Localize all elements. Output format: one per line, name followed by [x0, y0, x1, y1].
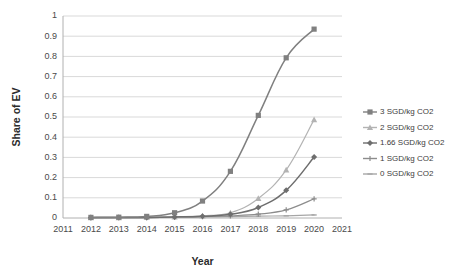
- ytick-label-0.4: 0.4: [44, 132, 57, 142]
- ev-share-line-chart: 00.10.20.30.40.50.60.70.80.9120112012201…: [0, 0, 470, 275]
- ytick-label-0.3: 0.3: [44, 152, 57, 162]
- legend-item-0[interactable]: 3 SGD/kg CO2: [363, 107, 434, 116]
- legend-marker-diamond-icon: [367, 140, 373, 146]
- xtick-label-2013: 2013: [109, 224, 129, 234]
- xtick-label-2016: 2016: [192, 224, 212, 234]
- xtick-label-2015: 2015: [165, 224, 185, 234]
- xtick-label-2018: 2018: [248, 224, 268, 234]
- legend-marker-square-icon: [367, 109, 372, 114]
- legend-item-2[interactable]: 1.66 SGD/kg CO2: [363, 138, 445, 147]
- xtick-label-2011: 2011: [53, 224, 72, 234]
- series-1: [88, 117, 317, 221]
- series-line-2: [91, 157, 314, 218]
- legend-label-4: 0 SGD/kg CO2: [380, 169, 434, 178]
- ytick-label-0.7: 0.7: [44, 71, 57, 81]
- xtick-label-2020: 2020: [304, 224, 324, 234]
- ytick-label-0: 0: [52, 212, 57, 222]
- series-3-point-2020: [312, 196, 317, 201]
- chart-canvas: 00.10.20.30.40.50.60.70.80.9120112012201…: [0, 0, 470, 275]
- series-0-point-2020: [312, 27, 317, 32]
- xtick-label-2021: 2021: [332, 224, 352, 234]
- ytick-label-0.1: 0.1: [44, 192, 57, 202]
- legend-marker-cross-icon: [367, 156, 372, 161]
- xtick-label-2017: 2017: [220, 224, 240, 234]
- series-line-0: [91, 29, 314, 217]
- legend-item-1[interactable]: 2 SGD/kg CO2: [363, 123, 434, 132]
- series-0-point-2018: [256, 113, 261, 118]
- ytick-label-0.2: 0.2: [44, 172, 57, 182]
- series-0-point-2016: [200, 198, 205, 203]
- series-0-point-2015: [172, 210, 177, 215]
- ytick-label-1: 1: [52, 10, 57, 20]
- series-0-point-2014: [144, 214, 149, 219]
- series-0-point-2019: [284, 55, 289, 60]
- series-0-point-2013: [116, 215, 121, 220]
- legend-item-3[interactable]: 1 SGD/kg CO2: [363, 154, 434, 163]
- y-axis-title: Share of EV: [10, 88, 22, 147]
- legend-label-1: 2 SGD/kg CO2: [380, 123, 434, 132]
- series-0-point-2012: [88, 215, 93, 220]
- ytick-label-0.8: 0.8: [44, 51, 57, 61]
- series-2-point-2018: [255, 204, 261, 210]
- legend-item-4[interactable]: 0 SGD/kg CO2: [363, 169, 434, 178]
- ytick-label-0.9: 0.9: [44, 31, 57, 41]
- xtick-label-2019: 2019: [276, 224, 296, 234]
- legend-label-0: 3 SGD/kg CO2: [380, 107, 434, 116]
- series-0-point-2017: [228, 169, 233, 174]
- ytick-label-0.6: 0.6: [44, 91, 57, 101]
- x-axis-title: Year: [191, 255, 213, 267]
- series-0: [88, 27, 316, 220]
- legend-label-3: 1 SGD/kg CO2: [380, 154, 434, 163]
- xtick-label-2012: 2012: [81, 224, 101, 234]
- series-3-point-2019: [284, 207, 289, 212]
- xtick-label-2014: 2014: [137, 224, 157, 234]
- ytick-label-0.5: 0.5: [44, 111, 57, 121]
- legend-label-2: 1.66 SGD/kg CO2: [380, 138, 445, 147]
